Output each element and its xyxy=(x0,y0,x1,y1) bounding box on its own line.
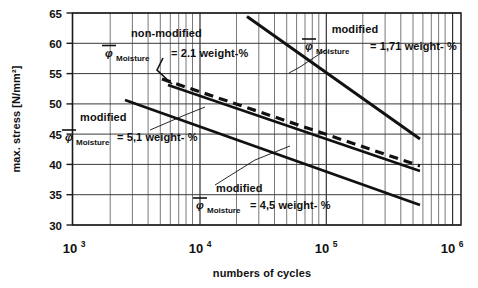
annotation-value: = 1,71 weight- % xyxy=(370,40,457,52)
annotation-subscript: Moisture xyxy=(116,54,150,63)
x-tick-base: 10 xyxy=(189,241,203,256)
annotation-value: = 5,1 weight- % xyxy=(117,131,198,143)
y-tick-label: 50 xyxy=(49,98,62,110)
chart-figure: 65 60 55 50 45 40 35 30 10 3 10 4 10 5 1… xyxy=(0,0,478,288)
x-tick-exp: 3 xyxy=(81,239,86,249)
y-tick-label: 65 xyxy=(49,8,62,20)
annotation-phi-symbol: φ xyxy=(105,47,113,59)
y-tick-label: 35 xyxy=(49,189,62,201)
annotation-title: modified xyxy=(332,23,379,35)
annotation-phi-symbol: φ xyxy=(305,40,313,52)
x-tick-base: 10 xyxy=(441,241,455,256)
x-tick-base: 10 xyxy=(63,241,77,256)
annotation-title: modified xyxy=(216,182,263,194)
x-tick-exp: 5 xyxy=(333,239,338,249)
chart-svg: 65 60 55 50 45 40 35 30 10 3 10 4 10 5 1… xyxy=(0,0,478,288)
x-axis-title: numbers of cycles xyxy=(213,267,311,279)
annotation-title: modified xyxy=(80,111,127,123)
y-tick-label: 40 xyxy=(49,159,62,171)
annotation-value: = 4,5 weight- % xyxy=(250,199,331,211)
x-tick-exp: 6 xyxy=(459,239,464,249)
annotation-subscript: Moisture xyxy=(76,138,110,147)
annotation-value: = 2.1 weight-% xyxy=(171,47,249,59)
y-tick-label: 55 xyxy=(49,68,62,80)
y-axis-title: max. stress [N/mm²] xyxy=(10,65,22,172)
annotation-title: non-modified xyxy=(131,27,202,39)
annotation-subscript: Moisture xyxy=(316,47,350,56)
y-tick-label: 30 xyxy=(49,220,62,232)
annotation-phi-symbol: φ xyxy=(65,131,73,143)
y-tick-label: 60 xyxy=(49,38,62,50)
x-tick-exp: 4 xyxy=(207,239,212,249)
x-tick-base: 10 xyxy=(315,241,329,256)
annotation-phi-symbol: φ xyxy=(196,199,204,211)
y-tick-label: 45 xyxy=(49,129,62,141)
annotation-subscript: Moisture xyxy=(207,206,241,215)
